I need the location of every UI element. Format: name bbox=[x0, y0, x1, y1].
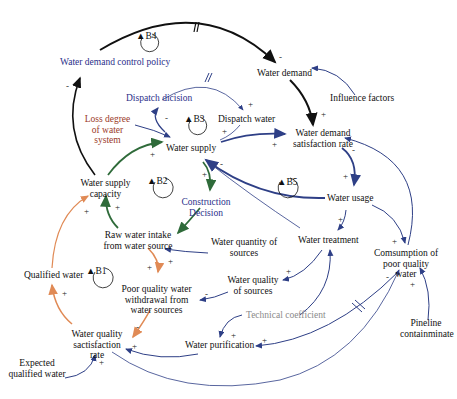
loop-arrow-icon: ▲ bbox=[147, 176, 156, 186]
node-water-demand: Water demand bbox=[257, 68, 312, 79]
node-qualified-water: Qualified water bbox=[24, 270, 83, 281]
link-usage-to-consumption bbox=[372, 205, 405, 243]
causal-loop-diagram: Water demand control policy Dispatch dic… bbox=[0, 0, 457, 399]
node-water-supply: Water supply bbox=[166, 143, 216, 154]
node-raw-water-intake: Raw water intake from water source bbox=[103, 230, 173, 251]
sign-plus: + bbox=[147, 263, 152, 272]
node-pipeline-contaminate: Pineline containminate bbox=[400, 318, 452, 339]
sign-plus: + bbox=[392, 237, 397, 246]
sign-plus: + bbox=[132, 342, 137, 351]
sign-plus: + bbox=[286, 267, 291, 276]
sign-minus: - bbox=[352, 146, 355, 155]
loop-b5: ▲B5 bbox=[277, 177, 298, 187]
sign-plus: + bbox=[321, 110, 326, 119]
sign-minus: - bbox=[136, 323, 139, 332]
sign-minus: - bbox=[386, 273, 389, 282]
sign-plus: + bbox=[231, 331, 236, 340]
sign-minus: - bbox=[66, 82, 69, 91]
node-water-quality-of-sources: Water quality of sources bbox=[226, 275, 280, 296]
loop-b1: ▲B1 bbox=[86, 266, 107, 276]
link-rawintake-to-capacity bbox=[106, 196, 118, 228]
node-dispatch-water: Dispatch water bbox=[218, 114, 275, 125]
loop-arrow-icon: ▲ bbox=[86, 266, 95, 276]
link-qualified-to-capacity bbox=[52, 196, 88, 268]
sign-plus: + bbox=[202, 170, 207, 179]
link-consumption-to-satisfaction bbox=[345, 138, 413, 245]
node-expected-qualified-water: Expected qualified water bbox=[8, 358, 66, 379]
node-water-supply-capacity: Water supply capacity bbox=[78, 178, 133, 199]
sign-plus: + bbox=[248, 100, 253, 109]
node-consumption-poor-quality: Comsumption of poor quality water bbox=[372, 248, 440, 280]
sign-plus: + bbox=[62, 289, 67, 298]
loop-b4: ▲B4 bbox=[136, 31, 157, 41]
sign-plus: + bbox=[150, 150, 155, 159]
sign-plus: + bbox=[222, 127, 227, 136]
loop-arrow-icon: ▲ bbox=[136, 31, 145, 41]
sign-plus: + bbox=[410, 280, 415, 289]
sign-plus: + bbox=[115, 203, 120, 212]
node-influence-factors: Influence factors bbox=[330, 93, 394, 104]
node-water-treatment: Water treatment bbox=[298, 235, 359, 246]
loop-b2: ▲B2 bbox=[147, 176, 168, 186]
node-water-purification: Water purification bbox=[185, 340, 254, 351]
node-water-demand-control-policy: Water demand control policy bbox=[60, 57, 170, 68]
node-poor-quality-withdrawal: Poor quality water withdrawal from water… bbox=[114, 284, 199, 316]
sign-plus: + bbox=[262, 336, 267, 345]
loop-arrow-icon: ▲ bbox=[277, 177, 286, 187]
node-water-quantity-of-sources: Water quantity of sources bbox=[210, 237, 278, 258]
sign-plus: + bbox=[99, 358, 104, 367]
sign-plus: + bbox=[168, 257, 173, 266]
sign-minus: - bbox=[220, 160, 223, 169]
sign-minus: - bbox=[205, 290, 208, 299]
sign-plus: + bbox=[272, 140, 277, 149]
link-influence-to-demand bbox=[312, 68, 355, 95]
node-water-demand-satisfaction-rate: Water demand satisfaction rate bbox=[288, 128, 358, 149]
link-usage-to-supply bbox=[206, 160, 325, 198]
link-supply-to-dispatch-decision bbox=[155, 108, 165, 132]
node-loss-degree: Loss degree of water system bbox=[80, 114, 135, 146]
node-technical-coefficient: Technical coefficient bbox=[246, 310, 326, 321]
node-construction-decision: Construction Decision bbox=[180, 197, 232, 218]
sign-plus: + bbox=[338, 215, 343, 224]
loop-b3: ▲B3 bbox=[184, 114, 205, 124]
loop-arrow-icon: ▲ bbox=[184, 114, 193, 124]
sign-minus: - bbox=[165, 114, 168, 123]
node-dispatch-decision: Dispatch dicision bbox=[126, 93, 192, 104]
link-demand-to-satisfaction bbox=[290, 80, 313, 125]
sign-plus: + bbox=[84, 207, 89, 216]
node-water-usage: Water usage bbox=[327, 193, 373, 204]
sign-plus: + bbox=[343, 172, 348, 181]
sign-minus: - bbox=[279, 53, 282, 62]
node-water-quality-satisfaction-rate: Water quality sactisfaction rate bbox=[66, 329, 128, 361]
